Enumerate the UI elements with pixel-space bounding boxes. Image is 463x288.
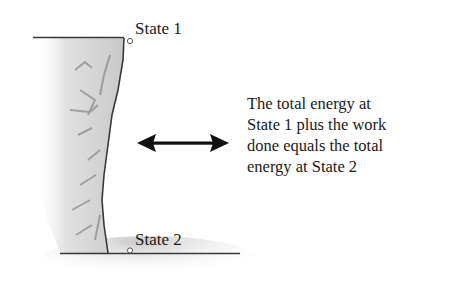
state2-marker <box>127 248 132 253</box>
caption-line: energy at State 2 <box>247 156 462 177</box>
caption-line: done equals the total <box>247 135 462 156</box>
double-headed-arrow-icon <box>137 134 229 152</box>
state1-label: State 1 <box>135 20 182 37</box>
energy-caption: The total energy at State 1 plus the wor… <box>247 93 462 177</box>
state2-label: State 2 <box>135 231 182 248</box>
caption-line: State 1 plus the work <box>247 114 462 135</box>
cliff-face <box>33 38 124 253</box>
caption-line: The total energy at <box>247 93 462 114</box>
state1-marker <box>127 38 132 43</box>
